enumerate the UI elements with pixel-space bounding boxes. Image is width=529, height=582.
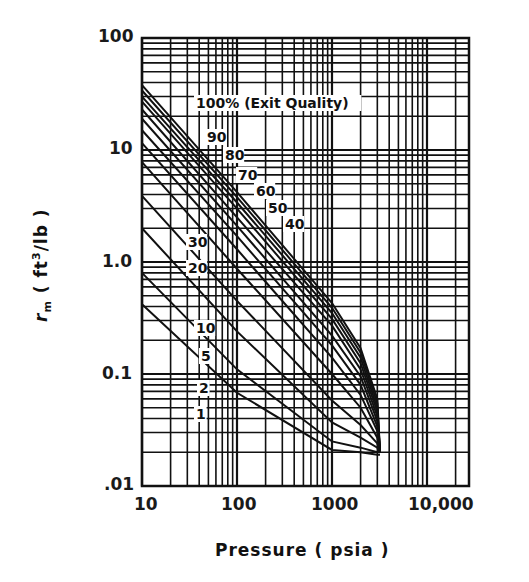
x-tick-10000: 10,000: [408, 494, 474, 514]
y-tick-10: 10: [109, 138, 133, 158]
svg-text:70: 70: [238, 167, 258, 183]
svg-text:80: 80: [225, 147, 245, 163]
svg-text:5: 5: [201, 348, 211, 364]
svg-text:1: 1: [196, 406, 206, 422]
svg-text:2: 2: [199, 380, 209, 396]
y-tick-0-1: 0.1: [102, 363, 132, 383]
y-axis-title: rm ( ft3/lb ): [30, 208, 54, 322]
y-title-sub: m: [41, 300, 54, 312]
y-title-r: r: [31, 313, 51, 322]
x-tick-10: 10: [134, 494, 158, 514]
svg-text:60: 60: [256, 183, 276, 199]
svg-text:10: 10: [196, 320, 216, 336]
y-tick-0-01: .01: [104, 474, 134, 494]
svg-text:50: 50: [268, 200, 288, 216]
x-axis-title: Pressure ( psia ): [215, 540, 390, 560]
x-tick-1000: 1000: [311, 494, 358, 514]
svg-text:30: 30: [188, 234, 208, 250]
x-tick-100: 100: [221, 494, 257, 514]
y-title-unit: ( ft: [31, 260, 51, 300]
svg-text:90: 90: [207, 129, 227, 145]
y-tick-100: 100: [98, 26, 134, 46]
y-title-sup: 3: [30, 251, 43, 260]
y-title-end: /lb ): [31, 208, 51, 251]
svg-text:100% (Exit Quality): 100% (Exit Quality): [196, 95, 349, 111]
svg-text:20: 20: [188, 260, 208, 276]
y-tick-1: 1.0: [102, 251, 132, 271]
svg-text:40: 40: [285, 216, 305, 232]
